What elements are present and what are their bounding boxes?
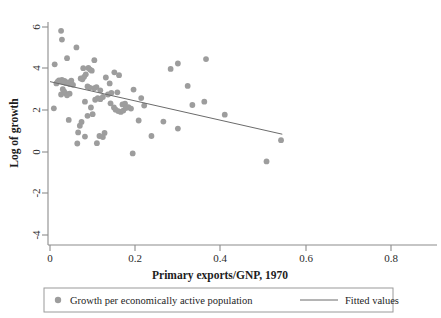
data-point: [91, 57, 97, 63]
x-tick-label: 0.2: [128, 252, 142, 264]
chart-page: 6 4 2 0 -2 -4 0 0.2 0.4 0.6 0.8 Primary …: [0, 0, 441, 318]
x-axis-title: Primary exports/GNP, 1970: [152, 269, 288, 282]
legend-marker-circle-icon: [55, 297, 61, 303]
data-point: [175, 61, 181, 67]
data-point: [201, 99, 207, 105]
data-point: [58, 92, 64, 98]
legend-label-scatter: Growth per economically active populatio…: [70, 295, 253, 306]
data-point: [82, 99, 88, 105]
y-tick-label: -4: [30, 230, 42, 240]
data-point: [138, 95, 144, 101]
data-point: [103, 75, 109, 81]
data-point: [52, 61, 58, 67]
data-point: [59, 37, 65, 43]
x-tick-label: 0: [47, 252, 53, 264]
data-point: [160, 119, 166, 125]
data-point: [88, 105, 94, 111]
data-point: [85, 113, 91, 119]
data-point: [189, 102, 195, 108]
data-point: [100, 134, 106, 140]
data-point: [107, 81, 113, 87]
data-point: [264, 159, 270, 165]
data-point: [89, 68, 95, 74]
y-axis-title: Log of growth: [8, 98, 21, 168]
data-point: [64, 55, 70, 61]
data-point: [203, 56, 209, 62]
data-point: [90, 111, 96, 117]
x-tick-label: 0.6: [299, 252, 313, 264]
data-point: [168, 66, 174, 72]
y-tick-label: 2: [30, 107, 42, 113]
legend-label-fit: Fitted values: [345, 295, 399, 306]
data-point: [278, 137, 284, 143]
y-tick-label: -2: [30, 188, 42, 197]
y-tick-label: 4: [30, 65, 42, 71]
data-point: [82, 134, 88, 140]
data-point: [100, 94, 106, 100]
data-point: [114, 89, 120, 95]
data-point: [94, 140, 100, 146]
legend: Growth per economically active populatio…: [44, 288, 399, 312]
data-point: [175, 126, 181, 132]
y-tick-label: 6: [30, 24, 42, 30]
data-point: [74, 141, 80, 147]
x-tick-label: 0.8: [384, 252, 398, 264]
data-point: [116, 72, 122, 78]
data-point: [136, 118, 142, 124]
data-point: [81, 74, 87, 80]
scatter-plot: 6 4 2 0 -2 -4 0 0.2 0.4 0.6 0.8 Primary …: [0, 0, 441, 318]
data-point: [131, 87, 137, 93]
data-point: [130, 151, 136, 157]
data-point: [58, 28, 64, 34]
data-point: [222, 112, 228, 118]
data-point: [66, 117, 72, 123]
data-point: [128, 106, 134, 112]
data-point: [51, 105, 57, 111]
data-point: [75, 130, 81, 136]
data-point: [77, 123, 83, 129]
data-point: [67, 91, 73, 97]
y-tick-label: 0: [30, 149, 42, 155]
data-point: [80, 65, 86, 71]
data-point: [74, 45, 80, 51]
data-point: [149, 133, 155, 139]
data-point: [185, 83, 191, 89]
x-tick-label: 0.4: [213, 252, 227, 264]
